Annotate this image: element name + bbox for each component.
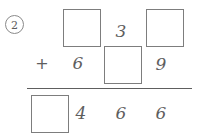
digit-sum-four: 4 bbox=[72, 105, 90, 122]
digit-top-three: 3 bbox=[112, 23, 130, 40]
digit-sum-six-second: 6 bbox=[152, 105, 170, 122]
problem-number-badge: 2 bbox=[5, 15, 24, 34]
digit-top-six: 6 bbox=[69, 55, 87, 72]
plus-operator: + bbox=[33, 56, 51, 72]
blank-box-middle[interactable] bbox=[104, 46, 142, 84]
digit-top-nine: 9 bbox=[152, 56, 170, 73]
arithmetic-worksheet-problem: 2 + 6 3 9 4 6 6 bbox=[0, 0, 199, 139]
blank-box-top-right[interactable] bbox=[146, 9, 184, 47]
blank-box-top-left[interactable] bbox=[63, 9, 101, 47]
sum-horizontal-rule bbox=[27, 88, 192, 89]
blank-box-sum-left[interactable] bbox=[31, 95, 69, 133]
digit-sum-six-first: 6 bbox=[112, 105, 130, 122]
